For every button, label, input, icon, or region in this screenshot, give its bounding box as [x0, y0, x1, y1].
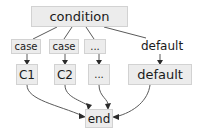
node-c2-label: C2: [57, 69, 73, 81]
node-case-1[interactable]: case: [11, 39, 41, 54]
node-c1[interactable]: C1: [16, 64, 38, 85]
node-case-1-label: case: [15, 42, 38, 52]
node-default-body[interactable]: default: [128, 64, 192, 85]
node-end[interactable]: end: [85, 109, 113, 128]
node-c2[interactable]: C2: [54, 64, 76, 85]
node-ellipsis-body-text: ...: [94, 70, 104, 80]
edge-ellipsis-body-to-end: [99, 85, 108, 106]
arrowhead-end-from-default: [112, 114, 119, 120]
node-condition[interactable]: condition: [31, 6, 128, 27]
edge-condition-to-default: [104, 27, 146, 38]
node-default-label-text: default: [141, 40, 183, 52]
node-default-body-label: default: [137, 68, 183, 81]
node-ellipsis-label-text: ...: [90, 42, 100, 52]
edge-c1-to-end: [27, 85, 83, 116]
node-end-label: end: [88, 113, 111, 125]
node-case-2[interactable]: case: [49, 39, 79, 54]
node-default-label[interactable]: default: [140, 38, 184, 54]
edge-condition-to-ellipsis: [86, 27, 94, 39]
node-ellipsis-body[interactable]: ...: [88, 64, 110, 85]
edge-condition-to-case-1: [33, 27, 57, 39]
node-c1-label: C1: [19, 69, 35, 81]
edge-condition-to-case-2: [64, 27, 72, 39]
edge-default-body-to-end: [115, 85, 150, 117]
switch-flow-diagram: condition case case ... default C1 C2 ..…: [0, 0, 210, 132]
edge-c2-to-end: [65, 85, 89, 106]
node-ellipsis-label[interactable]: ...: [84, 39, 106, 54]
node-case-2-label: case: [53, 42, 76, 52]
node-condition-label: condition: [49, 10, 109, 23]
